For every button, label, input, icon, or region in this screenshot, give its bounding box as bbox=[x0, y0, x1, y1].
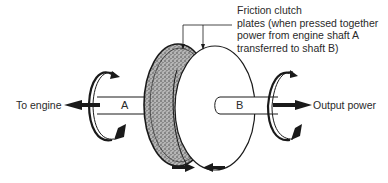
callout-line: Friction clutch bbox=[237, 4, 378, 17]
callout-text: Friction clutch plates (when pressed tog… bbox=[237, 4, 378, 54]
output-power-arrow bbox=[273, 100, 312, 110]
callout-line: power from engine shaft A bbox=[237, 29, 378, 42]
shaft-a-label: A bbox=[121, 99, 128, 111]
output-power-label: Output power bbox=[313, 99, 376, 111]
to-engine-label: To engine bbox=[16, 99, 62, 111]
callout-line: plates (when pressed together bbox=[237, 17, 378, 30]
to-engine-arrow bbox=[64, 100, 100, 110]
shaft-b-label: B bbox=[236, 99, 243, 111]
callout-line: transferred to shaft B) bbox=[237, 42, 378, 55]
